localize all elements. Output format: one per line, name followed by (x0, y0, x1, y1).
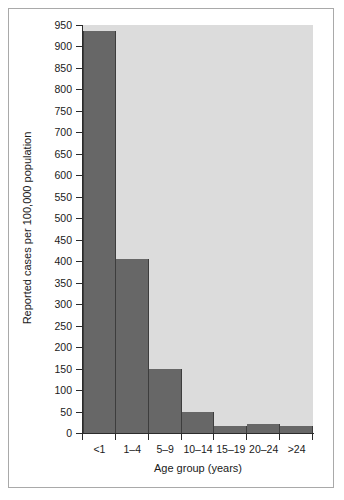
y-tick-label: 950 (54, 20, 72, 31)
x-tick-label: 10–14 (183, 444, 212, 455)
y-tick-mark (76, 390, 82, 391)
bar (149, 369, 182, 433)
y-tick-label: 200 (54, 342, 72, 353)
y-tick-label: 850 (54, 63, 72, 74)
y-tick-label: 350 (54, 278, 72, 289)
y-tick-mark (76, 283, 82, 284)
y-tick-mark (76, 68, 82, 69)
y-tick-mark (76, 89, 82, 90)
x-tick-mark (312, 434, 313, 440)
y-tick-mark (76, 261, 82, 262)
bar (116, 259, 149, 433)
y-tick-label: 400 (54, 256, 72, 267)
bar (182, 412, 215, 433)
y-tick-label: 550 (54, 192, 72, 203)
x-tick-mark (279, 434, 280, 440)
x-tick-label: 1–4 (124, 444, 142, 455)
y-tick-label: 300 (54, 299, 72, 310)
x-tick-mark (115, 434, 116, 440)
y-tick-label: 100 (54, 385, 72, 396)
y-tick-label: 0 (66, 428, 72, 439)
x-tick-mark (148, 434, 149, 440)
x-tick-label: >24 (288, 444, 306, 455)
y-tick-label: 750 (54, 106, 72, 117)
y-tick-label: 700 (54, 127, 72, 138)
y-tick-mark (76, 412, 82, 413)
y-tick-label: 600 (54, 170, 72, 181)
plot-area (83, 25, 313, 433)
y-tick-mark (76, 111, 82, 112)
y-tick-mark (76, 154, 82, 155)
y-tick-label: 500 (54, 213, 72, 224)
y-axis-line (82, 25, 83, 434)
x-axis-title: Age group (years) (83, 462, 313, 474)
bar (280, 426, 313, 433)
y-tick-mark (76, 175, 82, 176)
x-tick-label: 15–19 (216, 444, 245, 455)
bar (214, 426, 247, 433)
x-tick-label: 20–24 (249, 444, 278, 455)
y-tick-label: 650 (54, 149, 72, 160)
y-tick-mark (76, 132, 82, 133)
y-tick-mark (76, 326, 82, 327)
y-tick-label: 150 (54, 364, 72, 375)
x-tick-label: <1 (93, 444, 105, 455)
x-tick-mark (246, 434, 247, 440)
y-axis-title: Reported cases per 100,000 population (21, 128, 33, 328)
y-tick-label: 50 (60, 407, 72, 418)
y-tick-mark (76, 25, 82, 26)
y-tick-mark (76, 240, 82, 241)
y-tick-mark (76, 218, 82, 219)
x-tick-mark (213, 434, 214, 440)
bar (247, 424, 280, 433)
figure: 0501001502002503003504004505005506006507… (0, 0, 344, 500)
y-tick-mark (76, 197, 82, 198)
y-tick-mark (76, 304, 82, 305)
y-tick-label: 450 (54, 235, 72, 246)
y-tick-label: 250 (54, 321, 72, 332)
bars-layer (83, 25, 313, 433)
y-tick-mark (76, 369, 82, 370)
y-tick-label: 800 (54, 84, 72, 95)
x-tick-mark (82, 434, 83, 440)
y-tick-mark (76, 347, 82, 348)
x-tick-mark (181, 434, 182, 440)
x-tick-label: 5–9 (156, 444, 174, 455)
bar (83, 31, 116, 433)
y-tick-mark (76, 46, 82, 47)
y-tick-label: 900 (54, 41, 72, 52)
